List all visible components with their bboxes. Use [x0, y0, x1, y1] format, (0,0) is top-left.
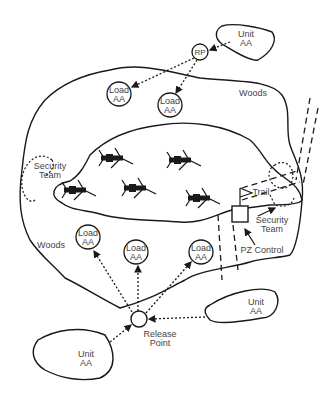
unit-top-label: Unit AA [232, 30, 260, 48]
load-label-5: Load AA [188, 244, 214, 262]
rp-label: RP [190, 48, 210, 57]
security-right-label: Security Team [252, 216, 292, 234]
load-label-2: Load AA [157, 97, 183, 115]
aircraft-icon [122, 178, 156, 198]
clearing-boundary [54, 123, 302, 222]
load-label-1: Load AA [106, 86, 132, 104]
aircraft-icon [62, 180, 96, 200]
unit-bottom-label: Unit AA [72, 350, 100, 368]
load-label-3: Load AA [75, 229, 101, 247]
woods-left-label: Woods [34, 241, 68, 250]
aircraft-icon [167, 150, 201, 170]
load-label-4: Load AA [123, 244, 149, 262]
pz-diagram: Unit AA RP Load AA Load AA Woods Securit… [0, 0, 329, 397]
pz-control-label: PZ Control [238, 246, 286, 255]
aircraft-icon [186, 188, 220, 208]
unit-right-label: Unit AA [242, 298, 270, 316]
release-point-label: Release Point [140, 330, 180, 348]
aircraft-icon [99, 148, 133, 168]
woods-top-label: Woods [236, 89, 270, 98]
security-left-label: Security Team [30, 162, 70, 180]
trail-label: Trail [250, 188, 272, 197]
